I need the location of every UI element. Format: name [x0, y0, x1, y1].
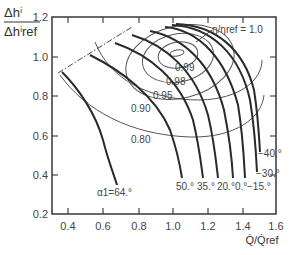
label-alpha-50: 50.° — [176, 181, 194, 192]
y-tick-1.2: 1.2 — [33, 11, 48, 23]
y-tick-0.8: 0.8 — [33, 90, 48, 102]
y-tick-0.2: 0.2 — [33, 208, 48, 220]
label-alpha-0: 0.° — [235, 181, 247, 192]
label-alpha-m40: −40.° — [258, 148, 282, 159]
label-alpha-m15: −15.° — [247, 181, 271, 192]
y-tick-0.6: 0.6 — [33, 130, 48, 142]
label-alpha-m30: −30.° — [256, 168, 280, 179]
label-0.80: 0.80 — [131, 134, 151, 145]
guide-vane-curves — [62, 24, 260, 185]
label-0.95: 0.95 — [153, 90, 173, 101]
label-0.90: 0.90 — [131, 103, 151, 114]
x-tick-1.6: 1.6 — [268, 220, 283, 232]
x-tick-1.4: 1.4 — [235, 220, 250, 232]
x-tick-1.0: 1.0 — [165, 220, 180, 232]
curve-alpha-50 — [90, 55, 182, 178]
x-axis-label: Q̇/Q̇ref — [245, 234, 279, 246]
y-label-numerator: Δhⁱ — [4, 5, 22, 20]
label-0.99: 0.99 — [175, 62, 195, 73]
label-alpha-64: α1=64.° — [97, 187, 132, 198]
label-alpha-20: 20.° — [217, 181, 235, 192]
y-label-denominator: Δhⁱref — [4, 24, 37, 39]
y-tick-1.0: 1.0 — [33, 51, 48, 63]
curve-alpha-0 — [150, 31, 233, 178]
x-tick-0.6: 0.6 — [95, 220, 110, 232]
contour-0.80 — [60, 75, 264, 137]
x-tick-1.2: 1.2 — [200, 220, 215, 232]
y-tick-0.4: 0.4 — [33, 169, 48, 181]
x-tick-0.8: 0.8 — [131, 220, 146, 232]
surge-limit-line — [58, 27, 132, 73]
label-alpha-35: 35.° — [197, 181, 215, 192]
curve-alpha-64 — [62, 72, 117, 185]
x-tick-0.4: 0.4 — [60, 220, 75, 232]
performance-map-chart: 1.2 1.0 0.8 0.6 0.4 0.2 0.4 0.6 0.8 1.0 … — [0, 0, 294, 255]
label-0.98: 0.98 — [166, 76, 186, 87]
label-eta-ref: η/ηref = 1.0 — [212, 24, 263, 35]
